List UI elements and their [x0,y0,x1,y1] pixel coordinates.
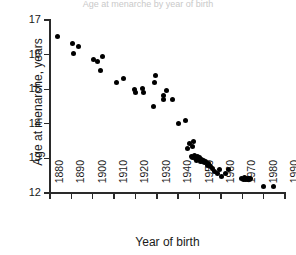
data-point [95,59,100,64]
data-point [55,34,60,39]
data-point [141,90,146,95]
x-axis-label: Year of birth [50,236,285,248]
data-point [164,88,169,93]
y-axis-tick-label: 13 [17,152,41,163]
x-axis-tick [135,193,136,199]
data-point [71,51,76,56]
x-axis-tick [263,193,264,199]
y-axis-tick-label: 17 [17,14,41,25]
data-point [153,73,158,78]
data-point [261,184,266,189]
x-axis-tick [177,193,178,199]
data-point [98,68,103,73]
data-point [217,167,222,172]
x-axis-tick [199,193,200,199]
data-point [152,80,157,85]
data-point [151,104,156,109]
data-point [223,171,228,176]
data-point [114,80,119,85]
data-point [248,176,253,181]
chart-title: Age at menarche by year of birth [0,0,296,9]
x-axis-tick [92,193,93,199]
y-axis-tick-label: 16 [17,49,41,60]
data-point [76,44,81,49]
data-point [190,144,195,149]
data-point [170,97,175,102]
data-point [70,41,75,46]
x-axis-tick [242,193,243,199]
data-point [133,90,138,95]
x-axis-tick-label: 1990 [289,160,296,200]
data-point [191,139,196,144]
data-point [121,76,126,81]
y-axis-tick-label: 12 [17,187,41,198]
plot-area [50,20,285,193]
data-point [183,118,188,123]
x-axis-tick [113,193,114,199]
x-axis-tick [220,193,221,199]
data-point [226,167,231,172]
data-point [161,97,166,102]
x-axis-tick [71,193,72,199]
y-axis-tick-label: 14 [17,118,41,129]
data-point [271,184,276,189]
data-point [100,54,105,59]
x-axis-tick [284,193,285,199]
y-axis-tick-label: 15 [17,83,41,94]
menarche-scatter-chart: Age at menarche by year of birth Age at … [0,0,296,255]
data-point [176,121,181,126]
x-axis-tick [49,193,50,199]
x-axis-tick [156,193,157,199]
